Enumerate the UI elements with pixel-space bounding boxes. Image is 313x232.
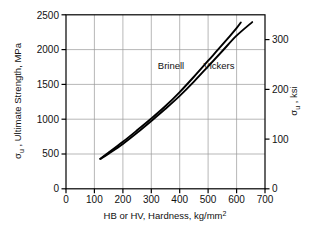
ytick-label-left: 1000 (37, 114, 60, 125)
ytick-label-left: 2000 (37, 44, 60, 55)
xtick-label: 500 (200, 194, 217, 205)
ytick-label-right: 200 (272, 84, 289, 95)
x-axis-title-main: HB or HV, Hardness, kg/mm (104, 210, 223, 221)
ytick-label-right: 100 (272, 134, 289, 145)
left-axis-ticks (62, 15, 67, 189)
ytick-label-right: 300 (272, 34, 289, 45)
ultimate-strength-vs-hardness-chart: 0 500 1000 1500 2000 2500 0 100 200 300 … (0, 0, 313, 232)
x-axis-title-superscript: 2 (223, 210, 227, 217)
ytick-label-left: 500 (42, 148, 59, 159)
right-axis-ticks (265, 40, 270, 189)
xtick-label: 300 (143, 194, 160, 205)
left-tick-labels: 0 500 1000 1500 2000 2500 (37, 10, 60, 194)
xtick-label: 400 (171, 194, 188, 205)
y-axis-title-left: σu , Ultimate Strength, MPa (12, 42, 25, 159)
ytick-label-right: 0 (272, 183, 278, 194)
ytick-label-left: 0 (53, 183, 59, 194)
bottom-axis-ticks (66, 189, 265, 194)
series-label-vickers: Vickers (204, 60, 235, 71)
series-label-brinell: Brinell (158, 60, 184, 71)
xtick-label: 100 (86, 194, 103, 205)
chart-figure: 0 500 1000 1500 2000 2500 0 100 200 300 … (0, 0, 313, 232)
xtick-label: 700 (257, 194, 274, 205)
right-tick-labels: 0 100 200 300 (272, 34, 289, 194)
xtick-label: 0 (63, 194, 69, 205)
bottom-tick-labels: 0 100 200 300 400 500 600 700 (63, 194, 274, 205)
plot-frame (66, 15, 265, 189)
y-axis-title-left-rest: , Ultimate Strength, MPa (12, 42, 23, 149)
series-line-brinell (100, 22, 241, 158)
x-axis-title: HB or HV, Hardness, kg/mm2 (104, 210, 227, 222)
xtick-label: 600 (228, 194, 245, 205)
y-axis-title-right: σu , ksi (288, 86, 301, 115)
ytick-label-left: 1500 (37, 79, 60, 90)
grid-lines (66, 15, 265, 189)
ytick-label-left: 2500 (37, 10, 60, 21)
y-axis-title-right-rest: , ksi (288, 86, 299, 106)
series-line-vickers (101, 22, 253, 159)
xtick-label: 200 (115, 194, 132, 205)
